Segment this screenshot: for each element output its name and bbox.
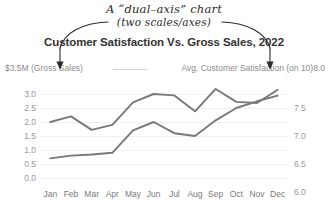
legend-right-text: Avg. Customer Satisfaction (on 10) (182, 63, 314, 73)
right-axis-tick: 7.5 (294, 103, 306, 113)
left-axis-tick: 0.5 (24, 159, 36, 169)
legend-line-left (113, 69, 147, 70)
left-axis-tick: 1.0 (24, 145, 36, 155)
right-axis-tick: 6.0 (294, 187, 306, 197)
left-axis-tick: 2.5 (24, 103, 36, 113)
plot-lines (40, 80, 288, 168)
left-axis-tick: 2.0 (24, 117, 36, 127)
gridline (40, 178, 288, 179)
series-line (50, 89, 277, 130)
left-axis: 3.02.52.01.51.00.50.0 (0, 75, 40, 175)
chart-title: Customer Satisfaction Vs. Gross Sales, 2… (0, 36, 328, 48)
legend-right-axis-label: Avg. Customer Satisfaction (on 10)8.0 (182, 63, 325, 73)
right-axis-top-tick: 8.0 (313, 63, 325, 73)
annotation-note: A “dual–axis” chart (two scales/axes) (0, 0, 328, 34)
annotation-line-2: (two scales/axes) (0, 16, 328, 29)
legend-left-axis-label: $3.5M (Gross Sales) (5, 63, 83, 73)
left-axis-tick: 0.0 (24, 173, 36, 183)
right-axis: 7.57.06.56.0 (288, 75, 328, 175)
left-axis-tick: 3.0 (24, 89, 36, 99)
legend-row: $3.5M (Gross Sales) Avg. Customer Satisf… (0, 63, 328, 76)
x-axis-tick-label: Dec (266, 189, 290, 200)
series-line (50, 96, 277, 159)
right-axis-tick: 7.0 (294, 131, 306, 141)
x-axis: JanFebMarAprMayJunJulAugSepOctNovDec (40, 189, 288, 201)
left-axis-tick: 1.5 (24, 131, 36, 141)
annotation-line-1: A “dual–axis” chart (0, 2, 328, 16)
chart-screenshot: A “dual–axis” chart (two scales/axes) Cu… (0, 0, 328, 221)
right-axis-tick: 6.5 (294, 159, 306, 169)
